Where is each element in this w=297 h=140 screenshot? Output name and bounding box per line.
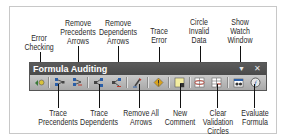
error-checking-icon[interactable] (34, 77, 45, 88)
remove-precedent-arrows-icon[interactable] (72, 77, 83, 88)
remove-dependent-arrows-icon[interactable] (111, 77, 122, 88)
toolbar-titlebar[interactable]: Formula Auditing ▼ ✕ (30, 63, 266, 75)
separator (227, 77, 229, 88)
close-icon[interactable]: ✕ (254, 63, 261, 75)
leader-remove-all-arrows (139, 84, 140, 108)
separator (126, 77, 128, 88)
circle-invalid-data-icon[interactable] (194, 77, 205, 88)
leader-evaluate-formula (254, 84, 255, 108)
show-watch-window-icon[interactable] (233, 77, 244, 88)
label-remove-dependents-arrows: Remove Dependents Arrows (98, 19, 138, 46)
label-circle-invalid-data: Circle Invalid Data (184, 18, 213, 45)
remove-all-arrows-icon[interactable] (132, 77, 143, 88)
label-new-comment: New Comment (163, 109, 197, 127)
toolbar-button-row: f (30, 75, 266, 90)
label-trace-error: Trace Error (146, 27, 172, 45)
separator (48, 77, 50, 88)
separator (168, 77, 170, 88)
trace-precedents-icon[interactable] (54, 77, 65, 88)
label-remove-precedents-arrows: Remove Precedents Arrows (58, 19, 98, 46)
label-evaluate-formula: Evaluate Formula (239, 109, 272, 127)
trace-error-icon[interactable] (153, 77, 164, 88)
label-trace-precedents: Trace Precendents (37, 109, 78, 127)
label-clear-validation-circles: Clear Validation Circles (200, 109, 236, 136)
toolbar-options-icon[interactable]: ▼ (238, 63, 245, 75)
leader-new-comment (180, 84, 181, 108)
label-show-watch-window: Show Watch Window (223, 18, 257, 45)
leader-trace-dependents (99, 84, 100, 108)
evaluate-formula-icon[interactable]: f (250, 77, 261, 88)
label-error-checking: Error Checking (24, 34, 53, 52)
leader-trace-precedents (58, 84, 59, 108)
separator (87, 77, 89, 88)
separator (147, 77, 149, 88)
toolbar-title: Formula Auditing (33, 63, 107, 75)
formula-auditing-toolbar: Formula Auditing ▼ ✕ f (29, 62, 267, 91)
leader-clear-validation-circles (217, 84, 218, 108)
label-trace-dependents: Trace Dependents (80, 109, 118, 127)
label-remove-all-arrows: Remove All Arrows (122, 109, 160, 127)
separator (189, 77, 191, 88)
